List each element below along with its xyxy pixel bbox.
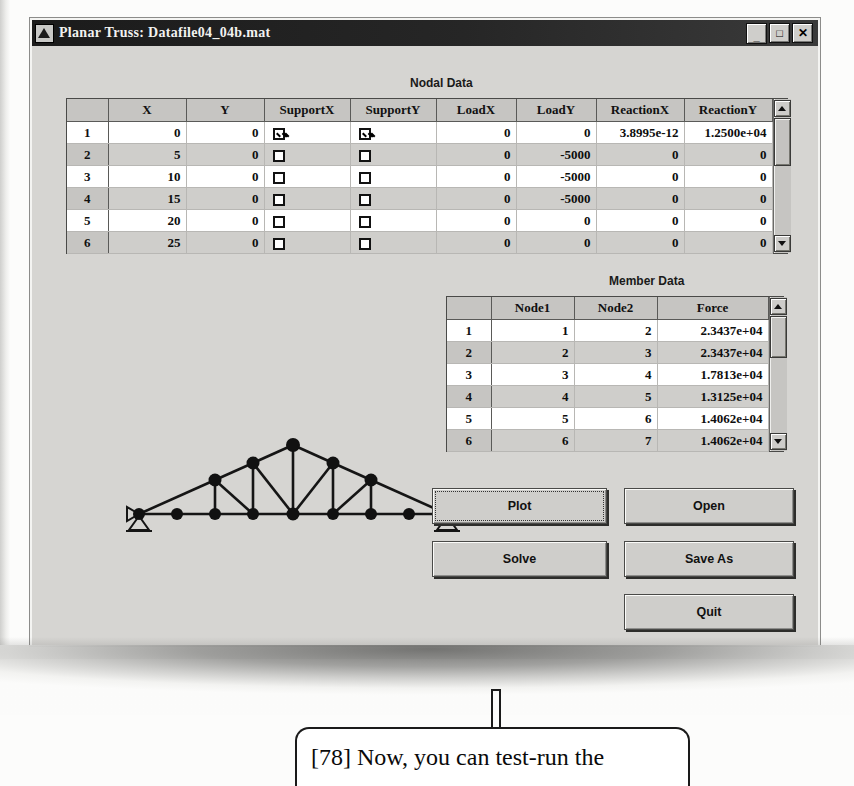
cell-reactionx[interactable]: 0 — [596, 166, 684, 188]
cell-reactionx[interactable]: 0 — [596, 232, 684, 254]
table-row[interactable]: 62500000 — [67, 232, 772, 254]
nodal-vertical-scrollbar[interactable] — [773, 99, 791, 253]
cell-loadx[interactable]: 0 — [436, 232, 516, 254]
member-col-node2[interactable]: Node2 — [574, 297, 657, 320]
checkbox-supporty-unchecked[interactable] — [359, 216, 371, 228]
solve-button[interactable]: Solve — [432, 541, 607, 577]
cell-y[interactable]: 0 — [186, 210, 264, 232]
row-index-cell[interactable]: 6 — [67, 232, 108, 254]
cell-reactionx[interactable]: 3.8995e-12 — [596, 122, 684, 144]
nodal-data-grid[interactable]: X Y SupportX SupportY LoadX LoadY Reacti… — [66, 98, 788, 254]
cell-node2[interactable]: 7 — [574, 430, 657, 452]
cell-node1[interactable]: 6 — [491, 430, 574, 452]
checkbox-supportx-unchecked[interactable] — [273, 194, 285, 206]
cell-node2[interactable]: 2 — [574, 320, 657, 342]
cell-x[interactable]: 25 — [108, 232, 186, 254]
cell-supportx[interactable] — [264, 232, 350, 254]
cell-loadx[interactable]: 0 — [436, 144, 516, 166]
row-index-cell[interactable]: 3 — [67, 166, 108, 188]
cell-reactiony[interactable]: 1.2500e+04 — [684, 122, 772, 144]
cell-force[interactable]: 2.3437e+04 — [657, 320, 768, 342]
nodal-col-reactiony[interactable]: ReactionY — [684, 99, 772, 122]
cell-reactiony[interactable]: 0 — [684, 188, 772, 210]
checkbox-supportx-unchecked[interactable] — [273, 238, 285, 250]
cell-supportx[interactable] — [264, 166, 350, 188]
table-row[interactable]: 41500-500000 — [67, 188, 772, 210]
minimize-button[interactable]: _ — [746, 23, 767, 44]
cell-node2[interactable]: 5 — [574, 386, 657, 408]
nodal-col-index[interactable] — [67, 99, 108, 122]
member-col-node1[interactable]: Node1 — [491, 297, 574, 320]
cell-node2[interactable]: 4 — [574, 364, 657, 386]
row-index-cell[interactable]: 5 — [67, 210, 108, 232]
cell-y[interactable]: 0 — [186, 122, 264, 144]
row-index-cell[interactable]: 3 — [447, 364, 491, 386]
nodal-col-reactionx[interactable]: ReactionX — [596, 99, 684, 122]
nodal-col-supportx[interactable]: SupportX — [264, 99, 350, 122]
cell-loady[interactable]: -5000 — [516, 144, 596, 166]
row-index-cell[interactable]: 2 — [447, 342, 491, 364]
nodal-col-loadx[interactable]: LoadX — [436, 99, 516, 122]
cell-loady[interactable]: -5000 — [516, 188, 596, 210]
checkbox-supporty-unchecked[interactable] — [359, 194, 371, 206]
cell-y[interactable]: 0 — [186, 188, 264, 210]
cell-x[interactable]: 15 — [108, 188, 186, 210]
cell-force[interactable]: 1.7813e+04 — [657, 364, 768, 386]
checkbox-supportx-checked[interactable] — [273, 128, 285, 140]
cell-loady[interactable]: -5000 — [516, 166, 596, 188]
checkbox-supporty-unchecked[interactable] — [359, 172, 371, 184]
cell-reactiony[interactable]: 0 — [684, 210, 772, 232]
cell-reactiony[interactable]: 0 — [684, 232, 772, 254]
nodal-col-loady[interactable]: LoadY — [516, 99, 596, 122]
table-row[interactable]: 4451.3125e+04 — [447, 386, 768, 408]
table-row[interactable]: 2500-500000 — [67, 144, 772, 166]
table-row[interactable]: 100003.8995e-121.2500e+04 — [67, 122, 772, 144]
cell-supportx[interactable] — [264, 122, 350, 144]
table-row[interactable]: 31000-500000 — [67, 166, 772, 188]
cell-loadx[interactable]: 0 — [436, 122, 516, 144]
row-index-cell[interactable]: 1 — [67, 122, 108, 144]
cell-supporty[interactable] — [350, 188, 436, 210]
cell-x[interactable]: 0 — [108, 122, 186, 144]
plot-button[interactable]: Plot — [432, 488, 607, 524]
cell-supportx[interactable] — [264, 210, 350, 232]
cell-node1[interactable]: 1 — [491, 320, 574, 342]
cell-loady[interactable]: 0 — [516, 210, 596, 232]
nodal-col-y[interactable]: Y — [186, 99, 264, 122]
cell-loady[interactable]: 0 — [516, 232, 596, 254]
cell-loadx[interactable]: 0 — [436, 210, 516, 232]
cell-supporty[interactable] — [350, 232, 436, 254]
cell-loadx[interactable]: 0 — [436, 188, 516, 210]
cell-reactionx[interactable]: 0 — [596, 188, 684, 210]
cell-loady[interactable]: 0 — [516, 122, 596, 144]
table-row[interactable]: 3341.7813e+04 — [447, 364, 768, 386]
cell-loadx[interactable]: 0 — [436, 166, 516, 188]
checkbox-supportx-unchecked[interactable] — [273, 172, 285, 184]
cell-node1[interactable]: 5 — [491, 408, 574, 430]
nodal-scroll-thumb[interactable] — [774, 118, 791, 166]
table-row[interactable]: 2232.3437e+04 — [447, 342, 768, 364]
member-data-grid[interactable]: Node1 Node2 Force 1122.3437e+042232.3437… — [446, 296, 784, 452]
scroll-up-icon[interactable] — [774, 100, 791, 117]
member-scroll-thumb[interactable] — [770, 316, 787, 358]
cell-node2[interactable]: 3 — [574, 342, 657, 364]
cell-supporty[interactable] — [350, 210, 436, 232]
cell-y[interactable]: 0 — [186, 144, 264, 166]
scroll-down-icon[interactable] — [770, 433, 787, 450]
cell-y[interactable]: 0 — [186, 166, 264, 188]
checkbox-supportx-unchecked[interactable] — [273, 150, 285, 162]
nodal-col-supporty[interactable]: SupportY — [350, 99, 436, 122]
cell-supporty[interactable] — [350, 122, 436, 144]
quit-button[interactable]: Quit — [624, 594, 794, 630]
window-titlebar[interactable]: Planar Truss: Datafile04_04b.mat _ □ ✕ — [32, 20, 818, 46]
row-index-cell[interactable]: 1 — [447, 320, 491, 342]
checkbox-supporty-unchecked[interactable] — [359, 238, 371, 250]
cell-node1[interactable]: 4 — [491, 386, 574, 408]
cell-force[interactable]: 1.4062e+04 — [657, 408, 768, 430]
table-row[interactable]: 52000000 — [67, 210, 772, 232]
member-col-index[interactable] — [447, 297, 491, 320]
cell-force[interactable]: 2.3437e+04 — [657, 342, 768, 364]
row-index-cell[interactable]: 2 — [67, 144, 108, 166]
cell-x[interactable]: 10 — [108, 166, 186, 188]
table-row[interactable]: 6671.4062e+04 — [447, 430, 768, 452]
